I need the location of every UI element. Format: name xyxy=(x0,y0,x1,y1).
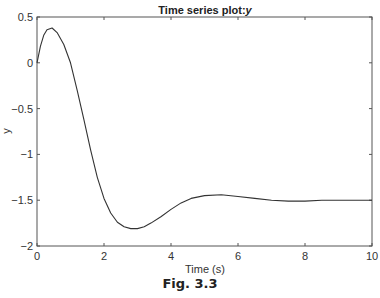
plot-area xyxy=(37,17,372,246)
x-tick-label: 6 xyxy=(235,250,241,262)
y-tick-label: −1 xyxy=(20,148,33,160)
time-series-chart: Time series plot:y 0246810 0.50−0.5−1−1.… xyxy=(0,0,380,298)
y-tick-label: −2 xyxy=(20,240,33,252)
y-tick-label: −0.5 xyxy=(11,103,33,115)
series-line-y xyxy=(37,28,372,229)
y-axis-label: y xyxy=(0,128,12,134)
x-tick-label: 0 xyxy=(34,250,40,262)
x-tick-label: 4 xyxy=(168,250,174,262)
x-tick-label: 2 xyxy=(101,250,107,262)
x-axis-ticks: 0246810 xyxy=(34,17,378,262)
y-axis-ticks: 0.50−0.5−1−1.5−2 xyxy=(11,11,372,252)
y-tick-label: 0.5 xyxy=(18,11,33,23)
x-tick-label: 8 xyxy=(302,250,308,262)
figure-caption: Fig. 3.3 xyxy=(0,276,380,291)
x-axis-label: Time (s) xyxy=(185,263,225,275)
x-tick-label: 10 xyxy=(366,250,378,262)
y-tick-label: −1.5 xyxy=(11,194,33,206)
y-tick-label: 0 xyxy=(27,57,33,69)
chart-title: Time series plot:y xyxy=(158,4,252,16)
